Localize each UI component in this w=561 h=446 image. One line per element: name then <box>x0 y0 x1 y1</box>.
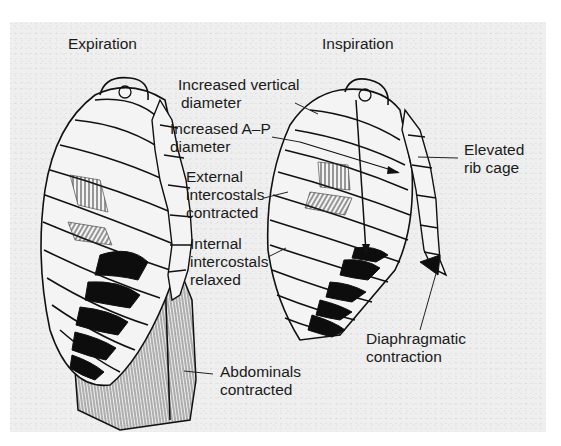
label-diaphragmatic-1: Diaphragmatic <box>366 330 466 347</box>
diaphragm-contraction-mark <box>420 255 440 275</box>
label-abdominals-2: contracted <box>220 381 292 398</box>
label-internal-intercostals-1: Internal <box>190 235 242 252</box>
label-elevated-rib-cage-1: Elevated <box>464 141 524 158</box>
label-external-intercostals-2: intercostals <box>186 186 265 203</box>
respiration-diagram: Expiration Inspiration Increased vertica… <box>0 0 561 446</box>
label-increased-ap-2: diameter <box>170 138 230 155</box>
inspiration-ribcage-outline <box>268 89 413 340</box>
inspiration-external-intercostal-1 <box>318 162 350 190</box>
title-expiration: Expiration <box>68 35 137 52</box>
title-inspiration: Inspiration <box>322 35 394 52</box>
label-increased-ap-1: Increased A–P <box>170 120 271 137</box>
label-diaphragmatic-2: contraction <box>366 348 442 365</box>
label-external-intercostals-1: External <box>186 168 243 185</box>
inspiration-figure <box>268 79 446 340</box>
label-elevated-rib-cage-2: rib cage <box>464 159 519 176</box>
label-internal-intercostals-2: intercostals <box>190 253 269 270</box>
label-external-intercostals-3: contracted <box>186 204 258 221</box>
label-internal-intercostals-3: relaxed <box>190 271 241 288</box>
label-abdominals-1: Abdominals <box>220 363 301 380</box>
label-increased-vertical-1: Increased vertical <box>178 76 299 93</box>
label-increased-vertical-2: diameter <box>181 94 241 111</box>
